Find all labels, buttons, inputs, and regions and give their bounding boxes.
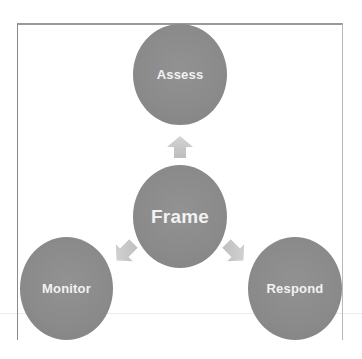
node-monitor-label: Monitor [42,281,91,296]
node-monitor: Monitor [20,237,113,340]
arrow-down-left-icon [112,238,138,266]
node-respond-label: Respond [266,281,323,296]
node-frame-label: Frame [151,206,209,228]
arrow-up-icon [166,135,194,159]
node-respond: Respond [248,237,342,340]
node-assess-label: Assess [157,67,204,82]
node-frame-center: Frame [133,165,227,268]
arrow-down-right-icon [222,238,248,266]
node-assess: Assess [133,24,227,125]
